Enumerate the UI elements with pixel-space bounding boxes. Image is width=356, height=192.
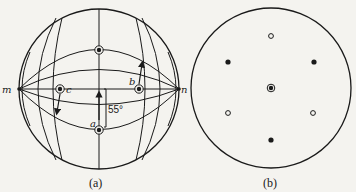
angle-bracket [104, 89, 106, 127]
open-pole [226, 111, 231, 116]
label-c: c [66, 84, 72, 95]
arrow-c-down [57, 94, 60, 112]
wulff-net-a [19, 9, 179, 169]
label-a: a [90, 118, 96, 129]
caption-b: (b) [263, 176, 277, 190]
filled-pole [225, 59, 230, 64]
open-pole [311, 111, 316, 116]
stereographic-projection-figure: m n b c a 55° (a) (b) [0, 0, 356, 192]
pole-m-dot [17, 87, 21, 91]
label-n: n [181, 84, 187, 95]
label-m: m [2, 84, 11, 95]
angle-label: 55° [108, 104, 123, 115]
filled-pole [268, 137, 273, 142]
caption-a: (a) [89, 176, 102, 190]
projection-b [191, 8, 351, 168]
filled-pole [311, 59, 316, 64]
open-pole [269, 34, 274, 39]
label-b: b [129, 76, 135, 87]
